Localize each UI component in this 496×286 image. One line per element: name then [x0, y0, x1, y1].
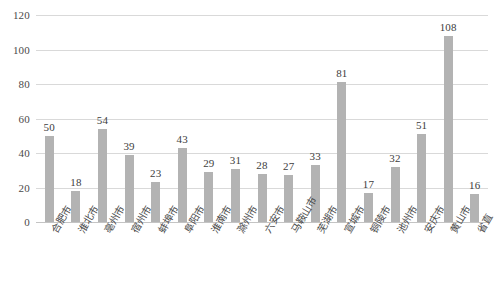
bar[interactable]	[45, 136, 54, 222]
y-axis-tick-label: 100	[13, 44, 30, 56]
y-axis: 020406080100120	[0, 0, 34, 286]
x-axis-slot: 宣城市	[329, 222, 356, 286]
x-axis-slot: 淮南市	[196, 222, 223, 286]
x-axis-slot: 合肥市	[36, 222, 63, 286]
x-axis-slot: 宿州市	[116, 222, 143, 286]
y-axis-tick-label: 120	[13, 9, 30, 21]
x-axis-slot: 阜阳市	[169, 222, 196, 286]
bar-value-label: 39	[123, 140, 134, 152]
y-axis-tick-label: 0	[24, 216, 30, 228]
x-axis: 合肥市淮北市亳州市宿州市蚌埠市阜阳市淮南市滁州市六安市马鞍山市芜湖市宣城市铜陵市…	[36, 222, 488, 286]
bar-slot: 31	[222, 15, 249, 222]
bar-value-label: 108	[440, 21, 457, 33]
bar[interactable]	[444, 36, 453, 222]
y-axis-tick-label: 80	[19, 78, 30, 90]
x-axis-slot: 滁州市	[222, 222, 249, 286]
bar-value-label: 17	[363, 178, 374, 190]
bar-slot: 81	[329, 15, 356, 222]
bar-slot: 18	[63, 15, 90, 222]
bar-slot: 43	[169, 15, 196, 222]
bar-slot: 39	[116, 15, 143, 222]
bar[interactable]	[284, 175, 293, 222]
x-axis-slot: 黄山市	[435, 222, 462, 286]
bar-value-label: 51	[416, 119, 427, 131]
bar-slot: 27	[275, 15, 302, 222]
x-axis-slot: 亳州市	[89, 222, 116, 286]
x-axis-slot: 安庆市	[408, 222, 435, 286]
bar-slot: 33	[302, 15, 329, 222]
bar-value-label: 29	[203, 157, 214, 169]
x-axis-slot: 铜陵市	[355, 222, 382, 286]
bar[interactable]	[258, 174, 267, 222]
x-axis-slot: 省直	[462, 222, 489, 286]
bar[interactable]	[391, 167, 400, 222]
bar[interactable]	[204, 172, 213, 222]
x-axis-slot: 马鞍山市	[275, 222, 302, 286]
bar-slot: 23	[142, 15, 169, 222]
x-axis-slot: 六安市	[249, 222, 276, 286]
bar-value-label: 43	[177, 133, 188, 145]
bar-slot: 50	[36, 15, 63, 222]
bar-value-label: 18	[70, 176, 81, 188]
bars-container: 50185439234329312827338117325110816	[36, 15, 488, 222]
x-axis-slot: 蚌埠市	[142, 222, 169, 286]
plot-area: 50185439234329312827338117325110816	[36, 15, 488, 222]
bar-value-label: 33	[310, 150, 321, 162]
bar-slot: 108	[435, 15, 462, 222]
bar-value-label: 81	[336, 67, 347, 79]
x-axis-slot: 芜湖市	[302, 222, 329, 286]
bar-value-label: 31	[230, 154, 241, 166]
bar-slot: 17	[355, 15, 382, 222]
x-axis-slot: 淮北市	[63, 222, 90, 286]
bar-slot: 54	[89, 15, 116, 222]
bar-value-label: 23	[150, 167, 161, 179]
bar-value-label: 50	[44, 121, 55, 133]
bar-slot: 28	[249, 15, 276, 222]
y-axis-tick-label: 40	[19, 147, 30, 159]
bar-value-label: 32	[389, 152, 400, 164]
bar-slot: 16	[462, 15, 489, 222]
bar-slot: 51	[408, 15, 435, 222]
y-axis-tick-label: 60	[19, 113, 30, 125]
bar-value-label: 27	[283, 160, 294, 172]
bar-slot: 29	[196, 15, 223, 222]
bar-value-label: 28	[256, 159, 267, 171]
bar-slot: 32	[382, 15, 409, 222]
bar-value-label: 16	[469, 179, 480, 191]
y-axis-tick-label: 20	[19, 182, 30, 194]
bar-value-label: 54	[97, 114, 108, 126]
bar[interactable]	[337, 82, 346, 222]
x-axis-slot: 池州市	[382, 222, 409, 286]
bar[interactable]	[151, 182, 160, 222]
